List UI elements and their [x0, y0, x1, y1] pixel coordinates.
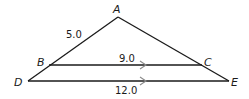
triangle-diagram: A B C D E 5.0 9.0 12.0 — [0, 0, 249, 99]
vertex-label-c: C — [204, 56, 212, 69]
segment-ad — [28, 17, 118, 81]
vertex-label-a: A — [112, 3, 121, 16]
segment-ae — [118, 17, 229, 81]
length-de: 12.0 — [115, 85, 137, 96]
length-ab: 5.0 — [66, 29, 82, 40]
length-bc: 9.0 — [119, 53, 135, 64]
vertex-label-b: B — [37, 56, 45, 69]
vertex-label-e: E — [231, 76, 238, 89]
vertex-label-d: D — [14, 76, 22, 89]
